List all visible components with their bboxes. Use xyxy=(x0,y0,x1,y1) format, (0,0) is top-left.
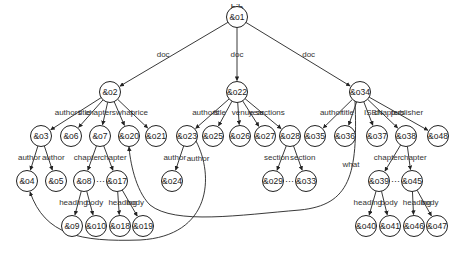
edge-label: section xyxy=(290,153,315,162)
node-label: &o48 xyxy=(428,131,448,141)
node-o33[interactable]: &o33 xyxy=(296,171,317,192)
node-label: &o2 xyxy=(102,87,117,97)
edge-label: doc xyxy=(302,50,315,59)
node-label: &o3 xyxy=(33,131,48,141)
node-label: &o40 xyxy=(356,221,376,231)
edge-label: doc xyxy=(231,50,244,59)
edge-label: heading xyxy=(354,198,382,207)
node-o9[interactable]: &o9 xyxy=(62,216,83,237)
node-o38[interactable]: &o38 xyxy=(396,126,417,147)
node-o8[interactable]: &o8 xyxy=(74,171,95,192)
edge-label: author xyxy=(163,153,186,162)
edge-label: body xyxy=(86,198,103,207)
node-label: &o28 xyxy=(280,131,300,141)
edge-label: title xyxy=(214,108,227,117)
node-o5[interactable]: &o5 xyxy=(46,171,67,192)
node-label: &o26 xyxy=(230,131,250,141)
node-o10[interactable]: &o10 xyxy=(86,216,107,237)
node-label: &o29 xyxy=(263,176,283,186)
node-o47[interactable]: &o47 xyxy=(427,216,448,237)
node-label: &o36 xyxy=(335,131,355,141)
node-label: &o37 xyxy=(367,131,387,141)
node-o4[interactable]: &o4 xyxy=(17,171,38,192)
edge-label-author-ref: author xyxy=(187,154,210,163)
edge-label: section xyxy=(264,153,289,162)
node-o22[interactable]: &o22 xyxy=(227,82,248,103)
node-label: &o20 xyxy=(119,131,139,141)
node-o23[interactable]: &o23 xyxy=(177,126,198,147)
edge-label: heading xyxy=(59,198,87,207)
ellipsis-layer: ········· xyxy=(96,176,400,186)
edge-label: author xyxy=(320,108,343,117)
edge-label: author xyxy=(42,153,65,162)
node-o21[interactable]: &o21 xyxy=(146,126,167,147)
node-o40[interactable]: &o40 xyxy=(356,216,377,237)
edge-label: title xyxy=(342,108,355,117)
node-o26[interactable]: &o26 xyxy=(230,126,251,147)
node-o46[interactable]: &o46 xyxy=(404,216,425,237)
node-o17[interactable]: &o17 xyxy=(107,171,128,192)
node-label: &o41 xyxy=(380,221,400,231)
edge-label-what-ref: what xyxy=(342,160,361,169)
node-label: &o10 xyxy=(86,221,106,231)
node-o28[interactable]: &o28 xyxy=(280,126,301,147)
node-o18[interactable]: &o18 xyxy=(110,216,131,237)
node-label: &o5 xyxy=(48,176,63,186)
node-label: &o24 xyxy=(162,176,182,186)
node-label: &o27 xyxy=(255,131,275,141)
ellipsis-marker: ··· xyxy=(391,176,400,186)
edge-label: sections xyxy=(255,108,284,117)
node-o34[interactable]: &o34 xyxy=(350,82,371,103)
edge-label: price xyxy=(131,108,149,117)
edge-label: author xyxy=(18,153,41,162)
edge-label: chapters xyxy=(85,108,116,117)
node-label: &o17 xyxy=(107,176,127,186)
node-o27[interactable]: &o27 xyxy=(255,126,276,147)
node-o24[interactable]: &o24 xyxy=(162,171,183,192)
node-o25[interactable]: &o25 xyxy=(203,126,224,147)
node-o35[interactable]: &o35 xyxy=(305,126,326,147)
node-label: &o8 xyxy=(76,176,91,186)
node-label: &o21 xyxy=(146,131,166,141)
ellipsis-marker: ··· xyxy=(285,176,294,186)
node-o1[interactable]: &o1 xyxy=(227,7,248,28)
node-label: &o35 xyxy=(305,131,325,141)
edge-o1-o2 xyxy=(120,22,228,86)
node-o36[interactable]: &o36 xyxy=(335,126,356,147)
node-o3[interactable]: &o3 xyxy=(31,126,52,147)
edge-label: chapter xyxy=(74,153,101,162)
node-o7[interactable]: &o7 xyxy=(90,126,111,147)
node-label: &o34 xyxy=(350,87,370,97)
edge-label: body xyxy=(127,198,144,207)
node-o29[interactable]: &o29 xyxy=(263,171,284,192)
node-o19[interactable]: &o19 xyxy=(133,216,154,237)
node-label: &o23 xyxy=(177,131,197,141)
node-o45[interactable]: &o45 xyxy=(402,171,423,192)
node-label: &o39 xyxy=(369,176,389,186)
node-label: &o7 xyxy=(92,131,107,141)
node-label: &o38 xyxy=(396,131,416,141)
edge-label: chapter xyxy=(374,153,401,162)
edge-label: chapter xyxy=(400,153,427,162)
node-o48[interactable]: &o48 xyxy=(428,126,449,147)
node-label: &o4 xyxy=(19,176,34,186)
node-label: &o45 xyxy=(402,176,422,186)
node-label: &o1 xyxy=(229,12,244,22)
edge-label: body xyxy=(421,198,438,207)
node-label: &o22 xyxy=(227,87,247,97)
node-label: &o46 xyxy=(404,221,424,231)
node-label: &o25 xyxy=(203,131,223,141)
node-o37[interactable]: &o37 xyxy=(367,126,388,147)
node-label: &o47 xyxy=(427,221,447,231)
node-o41[interactable]: &o41 xyxy=(380,216,401,237)
node-label: &o6 xyxy=(63,131,78,141)
edge-o1-o34 xyxy=(246,22,350,86)
node-o39[interactable]: &o39 xyxy=(369,171,390,192)
node-o6[interactable]: &o6 xyxy=(61,126,82,147)
xml-graph-diagram: bib docdocdocauthorstitlechapterswhatpri… xyxy=(0,0,462,260)
node-o2[interactable]: &o2 xyxy=(100,82,121,103)
edge-label: body xyxy=(380,198,397,207)
ellipsis-marker: ··· xyxy=(96,176,105,186)
node-o20[interactable]: &o20 xyxy=(119,126,140,147)
node-label: &o18 xyxy=(110,221,130,231)
